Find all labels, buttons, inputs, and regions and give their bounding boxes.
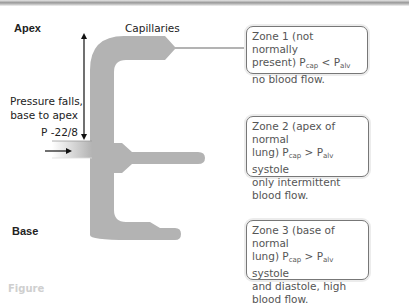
zone2-line1: Zone 2 (apex of normal [252,120,363,146]
zone2-line4: blood flow. [252,189,363,202]
inflow-vessel [52,141,92,158]
pressure-note-line2: base to apex [10,108,78,122]
zone1-line1: Zone 1 (not normally [252,30,362,56]
zone3-box: Zone 3 (base of normal lung) Pcap > Palv… [246,220,369,280]
figure-caption: Figure [8,283,44,294]
zone3-line3: and diastole, high [252,280,363,293]
zone3-line2: lung) Pcap > Palv systole [252,250,363,280]
apex-label: Apex [14,22,41,34]
base-label: Base [12,225,38,237]
zone1-line2: present) Pcap < Palv [252,56,362,73]
vessel-trunk [90,36,245,240]
zone2-box: Zone 2 (apex of normal lung) Pcap > Palv… [246,116,369,177]
zone1-box: Zone 1 (not normally present) Pcap < Pal… [246,26,368,74]
pressure-value-label: P -22/8 [41,126,78,138]
zone2-line2: lung) Pcap > Palv systole [252,146,363,176]
zone3-line4: blood flow. [252,293,363,306]
zone3-line1: Zone 3 (base of normal [252,224,363,250]
zone2-line3: only intermittent [252,176,363,189]
pressure-gradient-arrow-icon [81,33,87,140]
pressure-note: Pressure falls, base to apex [10,94,78,122]
pressure-note-line1: Pressure falls, [10,94,78,108]
zone1-line3: no blood flow. [252,73,362,86]
capillaries-label: Capillaries [125,22,180,34]
